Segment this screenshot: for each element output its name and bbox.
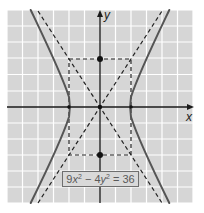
y-axis-label: y [103, 8, 111, 22]
equation-label: 9x2 − 4y2 = 36 [62, 171, 139, 187]
co-vertex-top [97, 56, 103, 62]
center-point [98, 105, 102, 109]
vertex-right [129, 105, 133, 109]
eq-minus-term: − 4 [82, 173, 101, 185]
co-vertex-bottom [97, 152, 103, 158]
eq-rhs: = 36 [110, 173, 135, 185]
hyperbola-figure: y x 9x2 − 4y2 = 36 [0, 0, 204, 213]
vertex-left [67, 105, 71, 109]
x-axis-label: x [185, 110, 193, 124]
